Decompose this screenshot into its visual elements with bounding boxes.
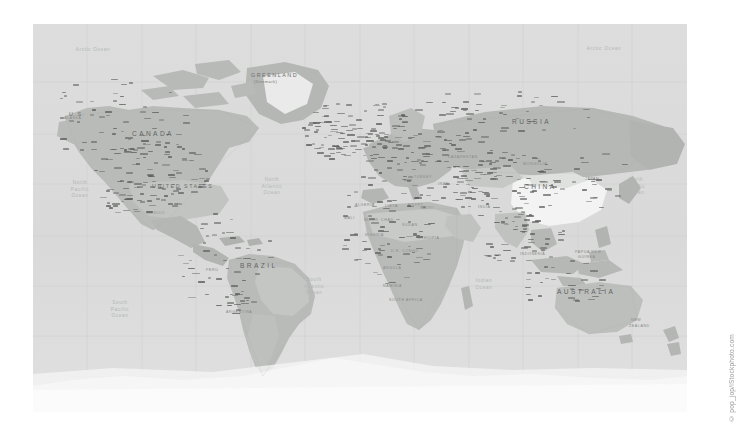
city-marker (364, 110, 367, 112)
city-marker (406, 157, 410, 159)
city-marker (366, 160, 374, 162)
city-marker (504, 224, 509, 226)
city-marker (531, 101, 535, 103)
city-marker (354, 191, 358, 193)
city-marker (389, 210, 396, 212)
city-marker (332, 145, 336, 147)
city-marker (408, 176, 413, 178)
city-marker (350, 145, 357, 147)
city-marker (493, 257, 496, 259)
city-marker (443, 186, 447, 188)
city-marker (483, 118, 486, 120)
city-marker (560, 188, 565, 190)
city-marker (392, 141, 399, 143)
city-marker (446, 113, 454, 115)
city-marker (572, 181, 575, 183)
city-marker (121, 131, 124, 133)
city-marker (397, 163, 400, 165)
city-marker (408, 246, 411, 248)
city-marker (441, 197, 446, 199)
city-marker (442, 154, 449, 156)
city-marker (525, 287, 531, 289)
world-map[interactable]: CANADAU.S.UNITED STATESMEXICOGREENLAND(D… (33, 24, 687, 412)
city-marker (500, 130, 508, 132)
city-marker (156, 141, 161, 143)
city-marker (459, 171, 463, 173)
city-marker (182, 158, 188, 160)
city-marker (109, 207, 113, 209)
city-marker (334, 121, 340, 123)
city-marker (134, 183, 142, 185)
city-marker (579, 289, 585, 291)
city-marker (156, 198, 160, 200)
city-marker (453, 176, 460, 178)
city-marker (427, 253, 431, 255)
city-marker (225, 296, 230, 298)
city-marker (251, 301, 257, 303)
city-marker (524, 184, 530, 186)
city-marker (513, 229, 518, 231)
city-marker (528, 299, 533, 301)
city-marker (362, 241, 367, 243)
city-marker (137, 147, 144, 149)
city-marker (133, 149, 139, 151)
city-marker (396, 144, 402, 146)
city-marker (241, 303, 249, 305)
city-marker (242, 280, 246, 282)
city-marker (457, 181, 464, 183)
city-marker (152, 112, 159, 114)
city-marker (380, 139, 386, 141)
city-marker (223, 260, 227, 262)
city-marker (379, 132, 385, 134)
city-marker (206, 235, 209, 237)
city-marker (112, 133, 116, 135)
city-marker (106, 115, 111, 117)
city-marker (462, 178, 468, 180)
city-marker (455, 199, 461, 201)
city-marker (499, 157, 506, 159)
city-marker (501, 127, 509, 129)
city-marker (392, 147, 398, 149)
city-marker (522, 224, 529, 226)
city-marker (216, 278, 222, 280)
city-marker (146, 144, 151, 146)
city-marker (545, 243, 549, 245)
city-marker (510, 260, 514, 262)
city-marker (557, 101, 565, 103)
city-marker (140, 111, 146, 113)
city-marker (189, 152, 196, 154)
city-marker (505, 217, 508, 219)
city-marker (444, 161, 449, 163)
city-marker (198, 281, 205, 283)
city-marker (517, 95, 522, 97)
city-marker (412, 185, 419, 187)
city-marker (246, 248, 250, 250)
city-marker (538, 295, 542, 297)
page-canvas: CANADAU.S.UNITED STATESMEXICOGREENLAND(D… (0, 0, 739, 434)
city-marker (322, 108, 330, 110)
city-marker (403, 253, 410, 255)
city-marker (373, 154, 379, 156)
city-marker (377, 274, 383, 276)
city-marker (329, 158, 335, 160)
city-marker (183, 122, 190, 124)
city-marker (522, 231, 526, 233)
city-marker (596, 179, 602, 181)
city-marker (413, 235, 420, 237)
city-marker (389, 221, 396, 223)
city-marker (418, 133, 422, 135)
city-marker (540, 247, 547, 249)
city-marker (183, 263, 189, 265)
city-marker (599, 207, 603, 209)
city-marker (328, 148, 334, 150)
city-marker (349, 124, 356, 126)
city-marker (501, 105, 507, 107)
city-marker (304, 129, 311, 131)
city-marker (240, 300, 246, 302)
city-marker (112, 149, 115, 151)
city-marker (519, 196, 525, 198)
copyright-notice: © pop_jop/iStockphoto.com (728, 334, 735, 422)
city-marker (377, 201, 383, 203)
city-marker (330, 125, 337, 127)
city-marker (407, 205, 411, 207)
